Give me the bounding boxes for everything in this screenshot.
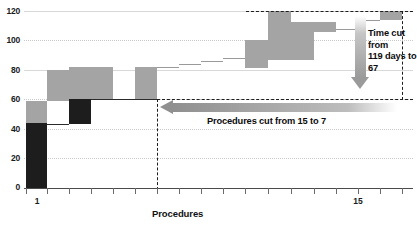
bar-segment-wait-3: [69, 67, 91, 99]
x-tick-4: [113, 188, 114, 194]
x-tick-9: [223, 188, 224, 194]
bar-segment-wait-13: [291, 22, 314, 60]
y-tick-label-80: 80: [0, 65, 20, 75]
reference-line-top-119: [246, 11, 413, 12]
x-axis-title: Procedures: [152, 208, 203, 219]
time-cut-arrow: [355, 16, 366, 78]
y-tick-label-20: 20: [0, 153, 20, 163]
arrow-head: [351, 77, 369, 89]
arrow-head: [160, 100, 173, 114]
x-tick-label-15: 15: [346, 196, 370, 206]
x-tick-1: [47, 188, 48, 194]
arrow-shaft: [173, 103, 397, 112]
step-connector-7: [157, 67, 179, 68]
x-tick-13: [314, 188, 315, 194]
reference-line-vertical-7: [157, 99, 158, 190]
annotation-time-cut: Time cut from 119 days to 67: [368, 28, 417, 74]
bar-segment-wait-1: [26, 101, 47, 123]
y-tick-label-60: 60: [0, 94, 20, 104]
x-tick-label-1: 1: [25, 196, 49, 206]
bar-segment-wait-4: [91, 67, 113, 99]
y-tick-label-120: 120: [0, 6, 20, 16]
y-tick-label-40: 40: [0, 124, 20, 134]
bar-segment-wait-16: [380, 11, 402, 20]
chart-canvas: 120 100 80 60 40 20 0 Procedures: [0, 0, 417, 231]
procedures-cut-arrow: [160, 103, 397, 112]
step-connector-5: [91, 99, 157, 100]
bar-segment-process-1: [26, 123, 47, 188]
x-tick-17: [402, 188, 403, 194]
x-tick-0: [26, 188, 27, 194]
x-tick-7: [179, 188, 180, 194]
step-connector-9b: [223, 58, 245, 59]
y-tick-label-100: 100: [0, 35, 20, 45]
gridline-20: [24, 158, 413, 159]
bar-segment-wait-2: [47, 70, 69, 101]
x-tick-3: [91, 188, 92, 194]
bar-segment-wait-6: [135, 67, 157, 99]
x-tick-16: [380, 188, 381, 194]
arrow-shaft: [355, 16, 366, 78]
x-tick-15: [358, 188, 359, 194]
x-tick-10: [245, 188, 246, 194]
step-connector-9: [201, 61, 223, 62]
x-axis-line: [24, 188, 413, 189]
bar-segment-process-3: [69, 99, 91, 124]
x-tick-8: [201, 188, 202, 194]
bar-segment-wait-12: [268, 11, 291, 60]
step-connector-2: [47, 124, 69, 125]
x-tick-11: [268, 188, 269, 194]
x-tick-12: [291, 188, 292, 194]
x-tick-14: [336, 188, 337, 194]
y-tick-label-0: 0: [0, 182, 20, 192]
bar-segment-wait-14: [314, 22, 336, 32]
bar-segment-wait-10: [245, 40, 268, 68]
gridline-40: [24, 129, 413, 130]
x-tick-6: [157, 188, 158, 194]
step-connector-8: [179, 64, 201, 65]
x-tick-5: [135, 188, 136, 194]
reference-line-target-67: [157, 99, 413, 100]
x-tick-2: [69, 188, 70, 194]
annotation-procedures-cut: Procedures cut from 15 to 7: [207, 116, 407, 128]
